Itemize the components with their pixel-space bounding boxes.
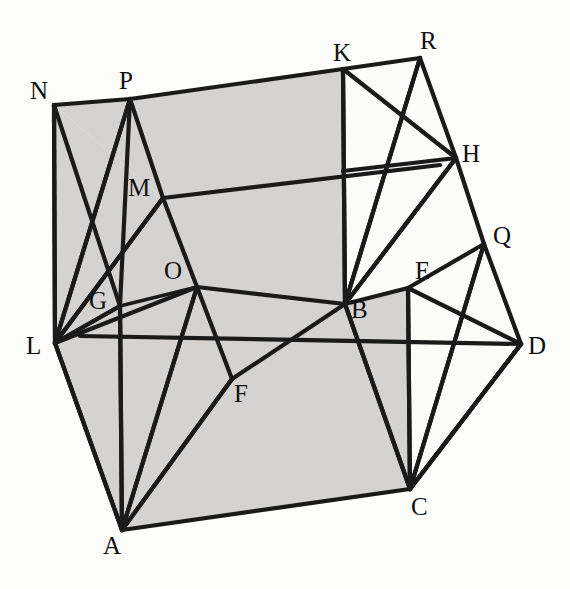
- edge-C-fan-E: [408, 288, 410, 489]
- edge-L-fan-N: [54, 105, 55, 343]
- vertex-label-D: D: [528, 333, 546, 358]
- edge-B-fan-K: [343, 69, 345, 304]
- vertex-label-M: M: [128, 175, 150, 200]
- vertex-label-Q: Q: [493, 223, 511, 248]
- vertex-label-N: N: [30, 78, 48, 103]
- vertex-label-P: P: [119, 68, 133, 93]
- vertex-label-R: R: [420, 28, 437, 53]
- vertex-label-C: C: [411, 494, 428, 519]
- vertex-label-G: G: [89, 288, 107, 313]
- vertex-label-F: F: [234, 381, 248, 406]
- face-fills: [54, 58, 521, 530]
- vertex-label-H: H: [462, 141, 480, 166]
- geometry-figure-root: N P K R H M Q O E G B L D F C A: [0, 0, 570, 589]
- geometry-drawing: [0, 0, 570, 589]
- vertex-label-A: A: [103, 533, 121, 558]
- vertex-label-E: E: [415, 258, 430, 283]
- vertex-label-O: O: [164, 258, 182, 283]
- vertex-label-B: B: [351, 297, 368, 322]
- vertex-label-L: L: [26, 333, 41, 358]
- edge-A-fan-G: [120, 306, 122, 530]
- vertex-label-K: K: [333, 40, 351, 65]
